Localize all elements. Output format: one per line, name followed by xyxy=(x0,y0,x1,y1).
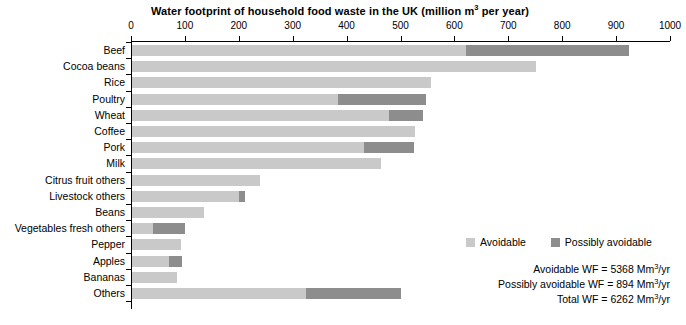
summary-line-text: Total WF = 6262 Mm xyxy=(557,293,654,305)
x-axis-tick xyxy=(401,36,402,41)
y-axis-tick xyxy=(126,155,131,156)
bar-segment-avoidable[interactable] xyxy=(132,191,239,202)
bar-segment-avoidable[interactable] xyxy=(132,272,177,283)
x-axis-tick xyxy=(347,36,348,41)
bar-segment-avoidable[interactable] xyxy=(132,61,536,72)
bar-segment-avoidable[interactable] xyxy=(132,158,381,169)
summary-line-text: Avoidable WF = 5368 Mm xyxy=(533,263,654,275)
y-axis-tick xyxy=(126,107,131,108)
category-label-beans: Beans xyxy=(95,207,125,218)
legend-label-avoidable: Avoidable xyxy=(480,236,526,248)
legend-label-possibly-avoidable: Possibly avoidable xyxy=(565,236,652,248)
category-label-pork: Pork xyxy=(103,142,125,153)
x-axis-tick-label: 300 xyxy=(263,20,323,31)
y-axis-tick xyxy=(126,253,131,254)
bar-segment-avoidable[interactable] xyxy=(132,223,153,234)
summary-annotations: Avoidable WF = 5368 Mm3/yrPossibly avoid… xyxy=(410,262,670,307)
category-label-pepper: Pepper xyxy=(91,239,125,250)
x-axis-tick xyxy=(454,36,455,41)
x-axis-tick-label: 0 xyxy=(101,20,161,31)
category-label-vegetables-fresh-others: Vegetables fresh others xyxy=(15,223,125,234)
bar-segment-avoidable[interactable] xyxy=(132,94,338,105)
legend-item-avoidable[interactable]: Avoidable xyxy=(466,236,526,248)
bar-segment-possibly-avoidable[interactable] xyxy=(169,256,182,267)
summary-line-unit: /yr xyxy=(658,278,670,290)
x-axis-tick xyxy=(131,36,132,41)
category-label-beef: Beef xyxy=(103,45,125,56)
y-axis-tick xyxy=(126,285,131,286)
chart-title: Water footprint of household food waste … xyxy=(0,5,680,17)
x-axis-tick xyxy=(508,36,509,41)
bar-segment-possibly-avoidable[interactable] xyxy=(306,288,401,299)
y-axis-tick xyxy=(126,236,131,237)
bar-segment-avoidable[interactable] xyxy=(132,239,181,250)
y-axis-tick xyxy=(126,269,131,270)
bar-segment-possibly-avoidable[interactable] xyxy=(338,94,426,105)
summary-line-1: Possibly avoidable WF = 894 Mm3/yr xyxy=(410,277,670,292)
category-label-others: Others xyxy=(93,288,125,299)
bar-segment-avoidable[interactable] xyxy=(132,175,260,186)
category-label-cocoa-beans: Cocoa beans xyxy=(63,61,125,72)
bar-segment-possibly-avoidable[interactable] xyxy=(466,45,629,56)
y-axis-tick xyxy=(126,139,131,140)
x-axis-tick-label: 500 xyxy=(371,20,431,31)
category-label-citrus-fruit-others: Citrus fruit others xyxy=(45,175,125,186)
category-label-livestock-others: Livestock others xyxy=(49,191,125,202)
y-axis-tick xyxy=(126,74,131,75)
bar-segment-possibly-avoidable[interactable] xyxy=(239,191,245,202)
bar-segment-possibly-avoidable[interactable] xyxy=(153,223,185,234)
bar-segment-avoidable[interactable] xyxy=(132,142,364,153)
legend-swatch-possibly-avoidable xyxy=(551,238,560,247)
y-axis-tick xyxy=(126,91,131,92)
x-axis-tick xyxy=(185,36,186,41)
x-axis-tick xyxy=(293,36,294,41)
category-label-milk: Milk xyxy=(106,158,125,169)
category-label-bananas: Bananas xyxy=(84,272,125,283)
legend-item-possibly-avoidable[interactable]: Possibly avoidable xyxy=(551,236,652,248)
y-axis-tick xyxy=(126,204,131,205)
x-axis-tick-label: 800 xyxy=(532,20,592,31)
chart-legend: Avoidable Possibly avoidable xyxy=(466,235,652,248)
summary-line-text: Possibly avoidable WF = 894 Mm xyxy=(498,278,654,290)
y-axis-tick xyxy=(126,172,131,173)
x-axis-tick-label: 700 xyxy=(478,20,538,31)
x-axis-tick-label: 200 xyxy=(209,20,269,31)
x-axis-tick-label: 1000 xyxy=(640,20,686,31)
bar-segment-avoidable[interactable] xyxy=(132,288,306,299)
y-axis-tick xyxy=(126,220,131,221)
bar-segment-avoidable[interactable] xyxy=(132,126,415,137)
y-axis-tick xyxy=(126,123,131,124)
x-axis-tick-label: 100 xyxy=(155,20,215,31)
bar-segment-possibly-avoidable[interactable] xyxy=(364,142,414,153)
chart-title-prefix: Water footprint of household food waste … xyxy=(151,5,474,17)
y-axis-tick xyxy=(126,42,131,43)
x-axis-tick xyxy=(670,36,671,41)
bar-segment-avoidable[interactable] xyxy=(132,256,169,267)
x-axis-tick-label: 900 xyxy=(586,20,646,31)
summary-line-0: Avoidable WF = 5368 Mm3/yr xyxy=(410,262,670,277)
x-axis-tick-label: 600 xyxy=(424,20,484,31)
y-axis-tick xyxy=(126,188,131,189)
bar-segment-possibly-avoidable[interactable] xyxy=(389,110,423,121)
x-axis-tick-label: 400 xyxy=(317,20,377,31)
summary-line-unit: /yr xyxy=(658,293,670,305)
summary-line-unit: /yr xyxy=(658,263,670,275)
summary-line-2: Total WF = 6262 Mm3/yr xyxy=(410,292,670,307)
bar-segment-avoidable[interactable] xyxy=(132,207,204,218)
y-axis-tick xyxy=(126,58,131,59)
x-axis-tick xyxy=(239,36,240,41)
y-axis-tick xyxy=(126,301,131,302)
category-label-poultry: Poultry xyxy=(92,94,125,105)
legend-swatch-avoidable xyxy=(466,238,475,247)
category-label-coffee: Coffee xyxy=(94,126,125,137)
bar-segment-avoidable[interactable] xyxy=(132,110,389,121)
bar-segment-avoidable[interactable] xyxy=(132,77,431,88)
x-axis-line xyxy=(131,41,670,42)
category-label-apples: Apples xyxy=(93,256,125,267)
chart-title-suffix: per year) xyxy=(479,5,530,17)
x-axis-tick xyxy=(562,36,563,41)
category-label-rice: Rice xyxy=(104,77,125,88)
x-axis-tick xyxy=(616,36,617,41)
category-label-wheat: Wheat xyxy=(95,110,125,121)
bar-segment-avoidable[interactable] xyxy=(132,45,466,56)
